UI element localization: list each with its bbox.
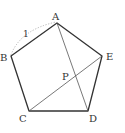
side-length-arc <box>11 22 56 55</box>
diagonal-ad <box>57 23 88 111</box>
vertex-label-c: C <box>19 113 27 124</box>
pentagon-diagram: A B E C D P 1 <box>0 0 125 133</box>
diagonal-ce <box>29 56 102 111</box>
vertex-label-d: D <box>89 113 97 124</box>
vertex-label-b: B <box>0 52 7 63</box>
side-length-label: 1 <box>23 29 29 39</box>
intersection-label-p: P <box>62 71 69 82</box>
vertex-label-a: A <box>51 11 60 22</box>
vertex-label-e: E <box>106 51 113 62</box>
